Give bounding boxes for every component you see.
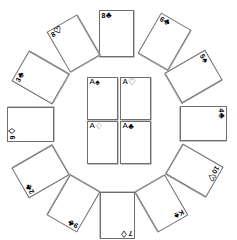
card-index-corner: 3♣ <box>14 70 27 83</box>
card-suit-clubs-icon: ♣ <box>217 113 226 119</box>
card-index-corner: 5♠ <box>198 52 210 64</box>
card-suit-diamonds-icon: ♢ <box>120 229 128 238</box>
ten-of-hearts[interactable]: 10♡ <box>165 144 223 198</box>
card-index-corner: A♠ <box>90 78 100 87</box>
card-index-corner: A♣ <box>123 122 134 131</box>
card-rank: 8 <box>102 12 106 19</box>
card-suit-diamonds-icon: ♢ <box>95 122 103 131</box>
card-table: 8♣6♣5♠4♣10♡K♠7♢9♣2♣9♢3♣8♡ A♠A♡A♢A♣ <box>0 0 237 240</box>
card-index-corner: 7♢ <box>120 229 132 238</box>
card-index-corner: 6♣ <box>158 15 171 28</box>
card-rank: 9 <box>9 136 16 140</box>
card-index-corner: K♠ <box>172 208 185 221</box>
seven-of-diamonds[interactable]: 7♢ <box>100 192 135 239</box>
card-index-corner: 8♡ <box>49 25 64 39</box>
card-rank: 7 <box>129 230 133 237</box>
card-rank: A <box>123 78 128 86</box>
card-index-corner: 8♣ <box>102 11 112 20</box>
card-suit-diamonds-icon: ♢ <box>8 127 17 135</box>
card-index-corner: 9♢ <box>8 127 17 139</box>
card-rank: A <box>90 122 95 130</box>
card-rank: A <box>123 122 128 130</box>
card-suit-clubs-icon: ♣ <box>106 11 112 20</box>
card-rank: A <box>90 78 95 86</box>
card-index-corner: 9♣ <box>66 218 79 231</box>
king-of-spades[interactable]: K♠ <box>135 174 189 232</box>
eight-of-hearts[interactable]: 8♡ <box>47 14 101 72</box>
four-of-clubs[interactable]: 4♣ <box>180 106 227 141</box>
ace-of-hearts[interactable]: A♡ <box>120 77 151 120</box>
card-index-corner: A♡ <box>123 78 137 87</box>
ace-of-spades[interactable]: A♠ <box>87 77 118 120</box>
card-index-corner: 4♣ <box>217 109 226 119</box>
ace-of-clubs[interactable]: A♣ <box>120 121 151 164</box>
card-index-corner: 10♡ <box>206 164 222 182</box>
card-index-corner: 2♣ <box>23 182 36 195</box>
card-suit-spades-icon: ♠ <box>95 78 100 87</box>
eight-of-clubs[interactable]: 8♣ <box>99 10 134 57</box>
card-suit-clubs-icon: ♣ <box>128 122 134 131</box>
card-index-corner: A♢ <box>90 122 104 131</box>
card-rank: 4 <box>218 109 225 113</box>
card-suit-hearts-icon: ♡ <box>128 78 136 87</box>
three-of-clubs[interactable]: 3♣ <box>11 51 69 105</box>
ace-of-diamonds[interactable]: A♢ <box>87 121 118 164</box>
nine-of-diamonds[interactable]: 9♢ <box>7 107 54 142</box>
